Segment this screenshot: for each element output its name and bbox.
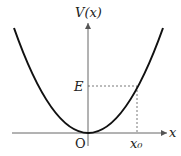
turning-point-label: x₀ [130,136,143,151]
y-axis-label: V(x) [75,5,102,20]
origin-label: O [75,136,86,151]
potential-diagram: V(x) x O E x₀ [0,0,181,156]
energy-label: E [73,79,84,94]
x-axis-label: x [169,125,177,140]
